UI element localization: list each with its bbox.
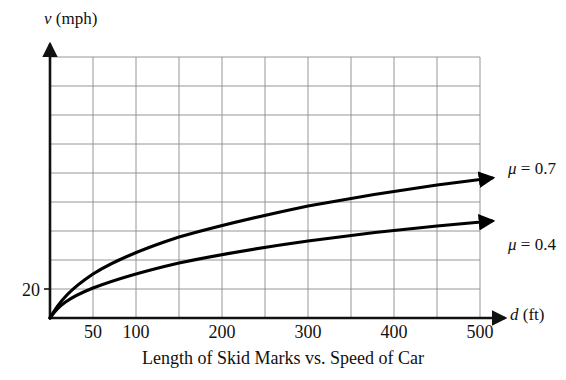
x-tick-label-200: 200: [197, 323, 247, 341]
x-axis-symbol: d: [510, 305, 519, 324]
curve-label-mu-0-4: μ = 0.4: [508, 236, 556, 253]
curve-value-low: = 0.4: [521, 235, 556, 254]
y-axis-title: v (mph): [44, 10, 97, 27]
curve-value-high: = 0.7: [521, 159, 556, 178]
x-tick-label-500: 500: [455, 323, 505, 341]
y-axis-unit: (mph): [56, 9, 98, 28]
x-tick-label-400: 400: [369, 323, 419, 341]
x-axis-unit: (ft): [523, 305, 545, 324]
mu-symbol-low: μ: [508, 235, 517, 254]
curve-label-mu-0-7: μ = 0.7: [508, 160, 556, 177]
x-axis-title: d (ft): [510, 306, 544, 323]
x-tick-label-100: 100: [111, 323, 161, 341]
figure-caption: Length of Skid Marks vs. Speed of Car: [0, 349, 566, 367]
skid-marks-figure: v (mph) d (ft) 20 50 100 200 300 400 500…: [0, 0, 566, 380]
y-tick-label-20: 20: [6, 281, 40, 299]
y-axis-symbol: v: [44, 9, 52, 28]
x-tick-label-300: 300: [283, 323, 333, 341]
curve-mu-0-4: [50, 221, 492, 318]
mu-symbol-high: μ: [508, 159, 517, 178]
x-tick-label-50: 50: [73, 323, 113, 341]
